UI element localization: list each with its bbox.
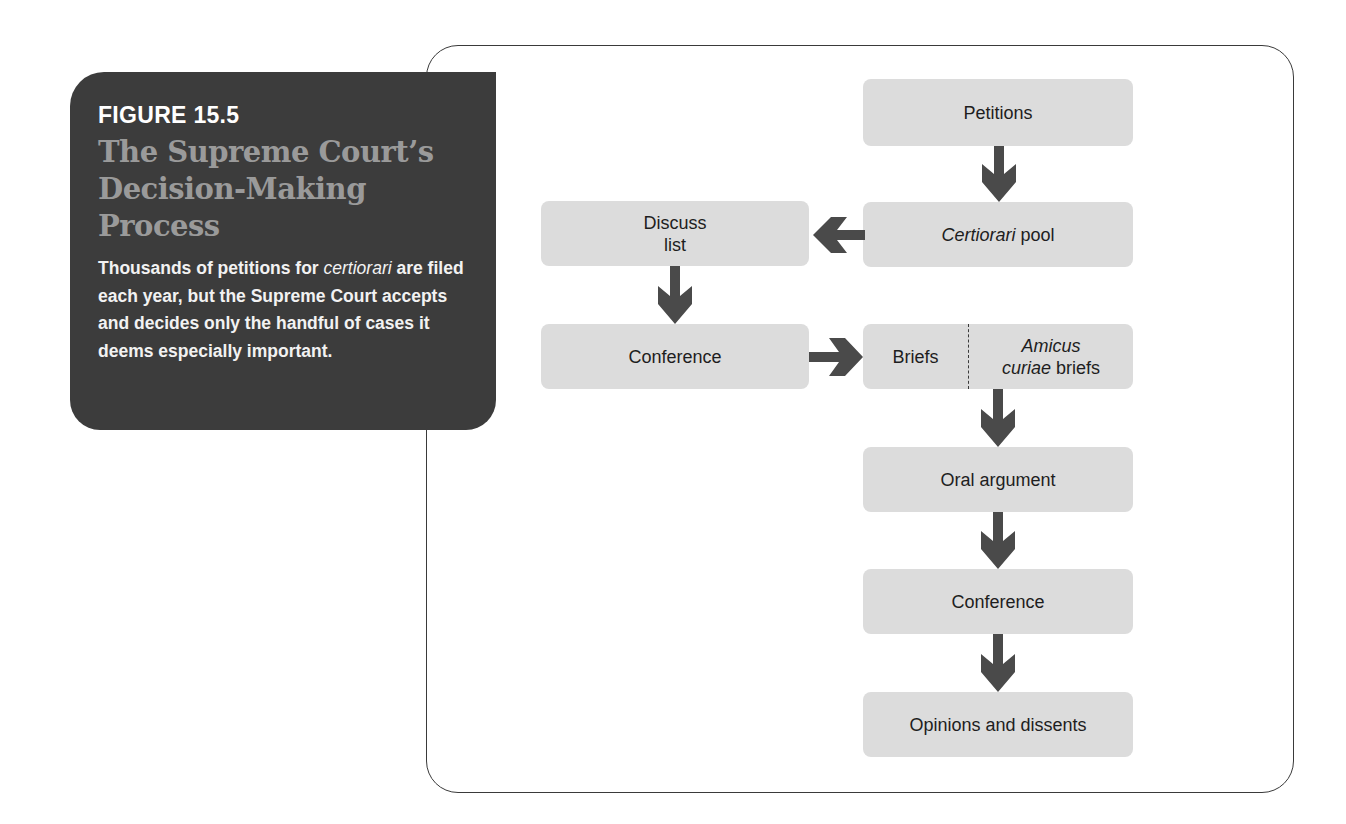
node-label-italic: Amicus [1021, 335, 1080, 357]
node-petitions: Petitions [863, 79, 1133, 146]
node-label: Oral argument [940, 469, 1055, 491]
figure-title-line: The Supreme Court’s [98, 134, 496, 171]
node-label-italic: Certiorari [941, 225, 1015, 245]
node-label: Conference [628, 346, 721, 368]
arrow-down-icon [979, 634, 1017, 692]
node-label-italic: curiae [1002, 358, 1051, 378]
description-italic-term: certiorari [324, 258, 392, 278]
arrow-down-icon [656, 266, 694, 324]
arrow-down-icon [980, 146, 1018, 202]
arrow-down-icon [979, 389, 1017, 447]
figure-label: FIGURE 15.5 [98, 102, 496, 128]
node-conference-2: Conference [863, 569, 1133, 634]
node-label-line: Discuss [643, 212, 706, 234]
node-label-line: list [664, 234, 686, 256]
node-conference-1: Conference [541, 324, 809, 389]
arrow-left-icon [813, 215, 865, 255]
node-certiorari-pool: Certiorari pool [863, 202, 1133, 267]
diagram-frame [426, 45, 1294, 793]
node-label: Conference [951, 591, 1044, 613]
figure-description: Thousands of petitions for certiorari ar… [98, 255, 478, 365]
node-label-rest: briefs [1051, 358, 1100, 378]
node-label: Briefs [892, 346, 938, 368]
arrow-down-icon [979, 512, 1017, 569]
amicus-briefs-section: Amicus curiae briefs [969, 324, 1133, 389]
node-label: Petitions [963, 102, 1032, 124]
arrow-right-icon [809, 336, 863, 378]
description-text: Thousands of petitions for [98, 258, 324, 278]
node-label-line: curiae briefs [1002, 357, 1100, 379]
figure-title-line: Process [98, 208, 496, 245]
briefs-section: Briefs [863, 324, 968, 389]
node-label: Opinions and dissents [909, 714, 1086, 736]
figure-caption-panel: FIGURE 15.5 The Supreme Court’s Decision… [70, 72, 496, 430]
figure-title: The Supreme Court’s Decision-Making Proc… [98, 134, 496, 245]
figure-title-line: Decision-Making [98, 171, 496, 208]
node-briefs: Briefs Amicus curiae briefs [863, 324, 1133, 389]
node-opinions-and-dissents: Opinions and dissents [863, 692, 1133, 757]
node-discuss-list: Discuss list [541, 201, 809, 266]
node-oral-argument: Oral argument [863, 447, 1133, 512]
node-label-rest: pool [1015, 225, 1054, 245]
node-label: Certiorari pool [941, 224, 1054, 246]
